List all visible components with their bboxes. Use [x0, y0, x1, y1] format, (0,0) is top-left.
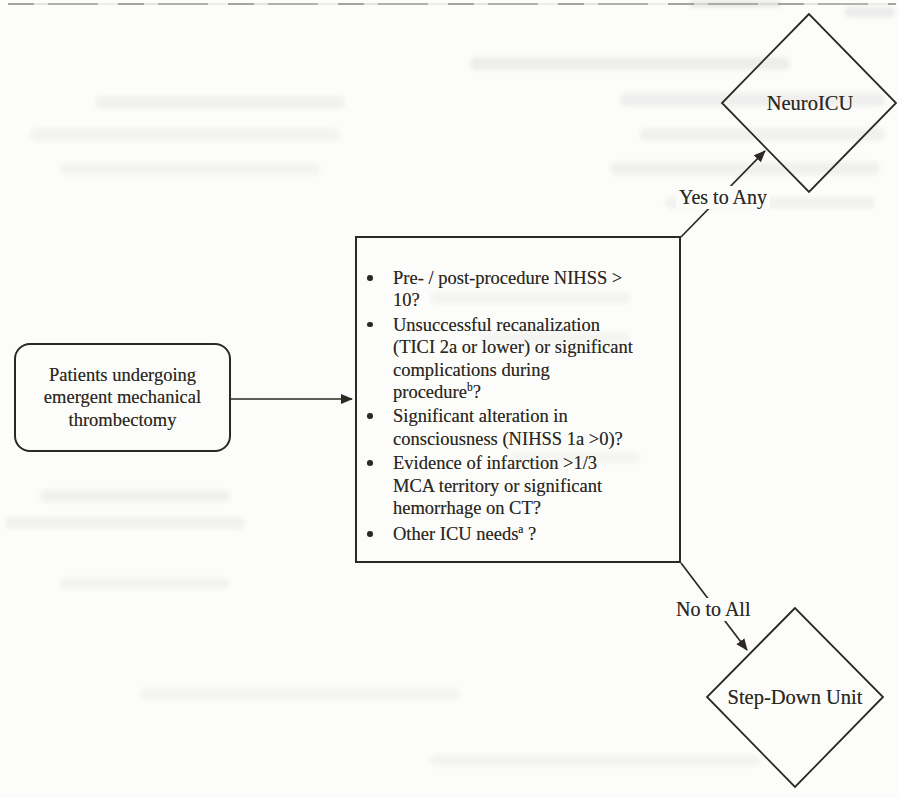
scanned-page: Patients undergoing emergent mechanical …: [0, 0, 899, 798]
criteria-node: Pre- / post-procedure NIHSS >10?Unsucces…: [355, 236, 681, 563]
criteria-item: Significant alteration inconsciousness (…: [357, 405, 675, 450]
criteria-item: Evidence of infarction >1/3MCA territory…: [357, 452, 675, 519]
stepdown-node-label: Step-Down Unit: [707, 608, 883, 786]
start-node: Patients undergoing emergent mechanical …: [14, 343, 231, 452]
criteria-item: Unsuccessful recanalization(TICI 2a or l…: [357, 314, 675, 404]
criteria-list: Pre- / post-procedure NIHSS >10?Unsucces…: [357, 267, 675, 546]
criteria-item: Other ICU needsa ?: [357, 523, 675, 545]
neuroicu-node-label: NeuroICU: [722, 15, 898, 191]
criteria-item: Pre- / post-procedure NIHSS >10?: [357, 267, 675, 312]
start-node-label: Patients undergoing emergent mechanical …: [44, 364, 201, 431]
